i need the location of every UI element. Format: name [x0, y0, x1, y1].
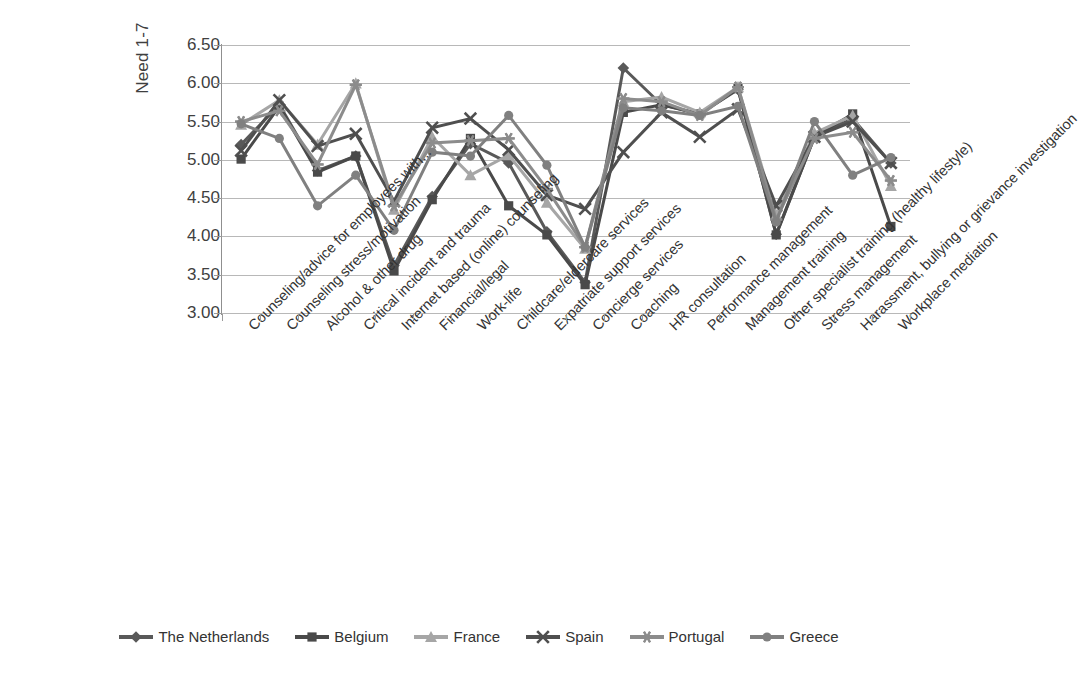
x-tick-mark	[375, 314, 376, 321]
x-tick-mark	[604, 314, 605, 321]
legend-marker-circle-icon	[758, 628, 776, 646]
data-point-marker	[131, 631, 143, 643]
legend-label: Portugal	[669, 628, 725, 645]
legend-label: Spain	[565, 628, 603, 645]
x-tick-mark	[298, 314, 299, 321]
x-tick-mark	[490, 314, 491, 321]
data-point-marker	[425, 631, 437, 642]
x-tick-mark	[681, 314, 682, 321]
legend-line-swatch	[119, 635, 153, 639]
legend-marker-triangle-icon	[422, 628, 440, 646]
y-tick-mark	[214, 198, 222, 199]
legend-item-greece[interactable]: Greece	[750, 628, 838, 645]
data-point-marker	[308, 632, 317, 641]
legend-item-belgium[interactable]: Belgium	[295, 628, 388, 645]
legend-marker-asterisk-icon	[638, 628, 656, 646]
x-tick-mark	[413, 314, 414, 321]
legend-label: Belgium	[334, 628, 388, 645]
y-tick-mark	[214, 83, 222, 84]
x-tick-mark	[451, 314, 452, 321]
y-tick-mark	[214, 236, 222, 237]
y-tick-mark	[214, 313, 222, 314]
legend-line-swatch	[630, 635, 664, 639]
x-tick-mark	[795, 314, 796, 321]
legend-label: France	[453, 628, 500, 645]
x-tick-mark	[719, 314, 720, 321]
x-tick-mark	[260, 314, 261, 321]
x-tick-mark	[222, 314, 223, 321]
data-point-marker	[641, 631, 653, 641]
y-tick-mark	[214, 160, 222, 161]
legend-marker-x-icon	[534, 628, 552, 646]
y-tick-mark	[214, 122, 222, 123]
legend-marker-diamond-icon	[127, 628, 145, 646]
x-tick-mark	[528, 314, 529, 321]
legend-line-swatch	[750, 635, 784, 639]
legend-item-the-netherlands[interactable]: The Netherlands	[119, 628, 269, 645]
x-tick-mark	[910, 314, 911, 321]
data-point-marker	[537, 631, 549, 643]
y-tick-mark	[214, 45, 222, 46]
x-tick-mark	[834, 314, 835, 321]
legend-marker-square-icon	[303, 628, 321, 646]
x-tick-mark	[337, 314, 338, 321]
legend-line-swatch	[414, 635, 448, 639]
legend-item-spain[interactable]: Spain	[526, 628, 603, 645]
legend-label: Greece	[789, 628, 838, 645]
y-tick-mark	[214, 275, 222, 276]
x-tick-mark	[872, 314, 873, 321]
legend-item-portugal[interactable]: Portugal	[630, 628, 725, 645]
data-point-marker	[763, 632, 772, 641]
legend-line-swatch	[295, 635, 329, 639]
legend-item-france[interactable]: France	[414, 628, 500, 645]
legend-label: The Netherlands	[158, 628, 269, 645]
x-tick-mark	[642, 314, 643, 321]
x-tick-mark	[757, 314, 758, 321]
x-tick-mark	[566, 314, 567, 321]
legend-line-swatch	[526, 635, 560, 639]
chart-legend: The NetherlandsBelgiumFranceSpainPortuga…	[0, 628, 958, 645]
